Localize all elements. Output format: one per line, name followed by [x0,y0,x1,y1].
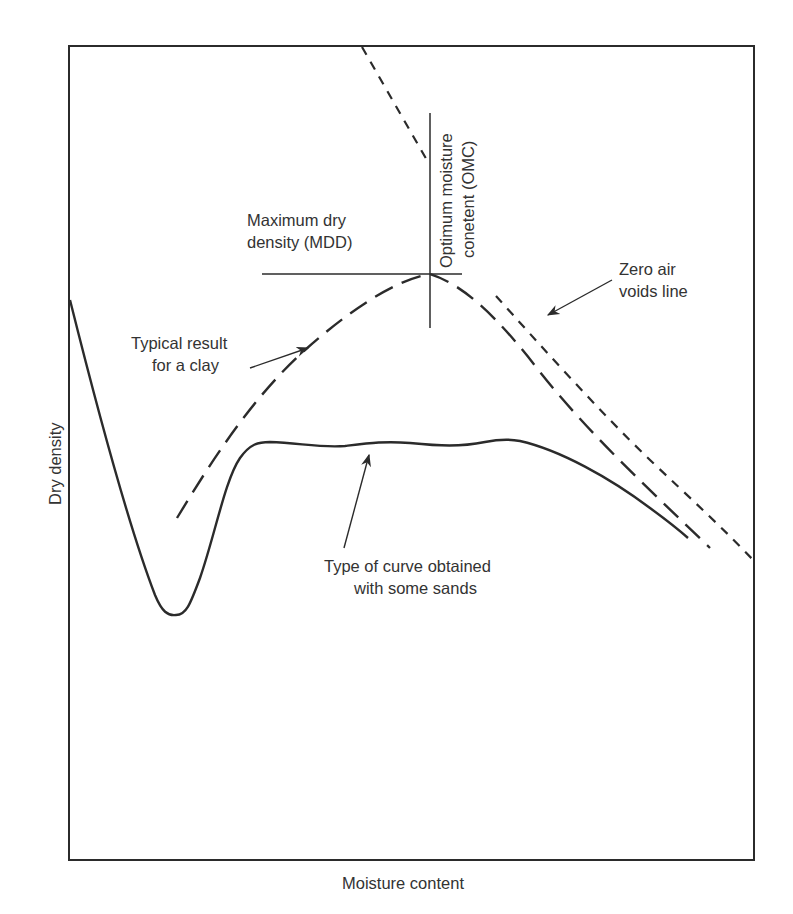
clay-annotation-arrow [250,348,308,368]
zav-label-line1: Zero air [619,260,676,278]
mdd-label-line1: Maximum dry [247,211,347,229]
mdd-label-line2: density (MDD) [247,233,352,251]
clay-label-line1: Typical result [131,334,228,352]
omc-label-line2: conetent (OMC) [459,141,477,258]
plot-frame [69,46,754,860]
sand-label-line1: Type of curve obtained [324,557,491,575]
sand-annotation-arrow [344,455,369,548]
sand-label-line2: with some sands [353,579,477,597]
zav-annotation-arrow [548,280,612,315]
clay-compaction-curve [177,274,710,548]
omc-label: Optimum moisture conetent (OMC) [437,133,477,268]
x-axis-label: Moisture content [342,874,464,892]
zav-label-line2: voids line [619,282,688,300]
y-axis-label: Dry density [46,422,64,505]
clay-label-line2: for a clay [152,356,220,374]
compaction-curve-diagram: Maximum dry density (MDD) Optimum moistu… [0,0,793,914]
zero-air-voids-line-upper [362,47,428,162]
omc-label-line1: Optimum moisture [437,133,455,268]
zero-air-voids-line [496,296,755,562]
